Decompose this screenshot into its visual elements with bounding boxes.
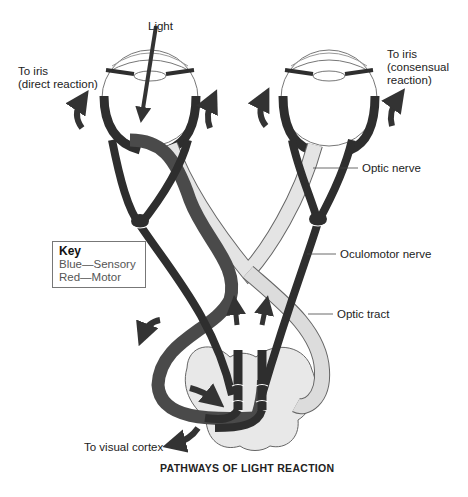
- right-eye: [281, 50, 377, 150]
- label-to-iris-consensual: To iris (consensual reaction): [387, 48, 449, 87]
- label-line: (direct reaction): [18, 78, 98, 91]
- label-oculomotor-nerve: Oculomotor nerve: [340, 248, 431, 261]
- legend-entry-sensory: Blue—Sensory: [59, 258, 145, 271]
- label-line: To iris: [387, 48, 449, 61]
- label-optic-tract: Optic tract: [337, 308, 389, 321]
- label-optic-nerve: Optic nerve: [362, 162, 421, 175]
- label-to-visual-cortex: To visual cortex: [84, 441, 163, 454]
- label-line: reaction): [387, 74, 449, 87]
- label-line: To iris: [18, 65, 98, 78]
- legend-title: Key: [59, 245, 145, 258]
- label-to-iris-direct: To iris (direct reaction): [18, 65, 98, 91]
- midbrain-shape: [185, 347, 315, 451]
- label-line: (consensual: [387, 61, 449, 74]
- label-light: Light: [148, 20, 173, 33]
- diagram-caption: PATHWAYS OF LIGHT REACTION: [160, 462, 334, 474]
- legend-key: Key Blue—Sensory Red—Motor: [52, 241, 146, 288]
- legend-entry-motor: Red—Motor: [59, 271, 145, 284]
